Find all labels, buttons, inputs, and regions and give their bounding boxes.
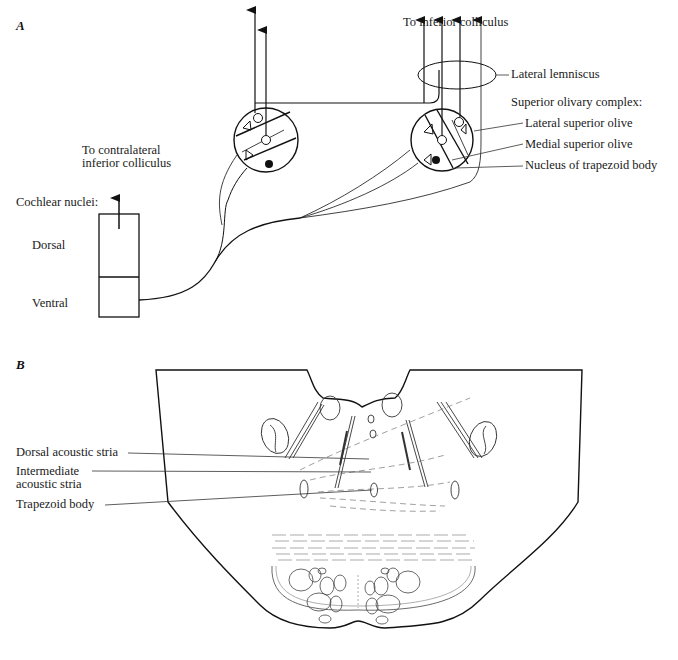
label-to-contralateral-line1: To contralateral	[82, 143, 161, 157]
brainstem-section-outline	[156, 370, 582, 628]
panel-a-letter: A	[16, 18, 25, 34]
leader-lines-b	[92, 453, 372, 505]
label-superior-olivary-complex: Superior olivary complex:	[511, 95, 642, 109]
label-dorsal-acoustic-stria: Dorsal acoustic stria	[16, 445, 118, 459]
label-ventral: Ventral	[32, 296, 68, 310]
lateral-lemniscus-ellipse	[418, 61, 496, 89]
cochlear-nuclei-box	[99, 214, 139, 317]
label-medial-superior-olive: Medial superior olive	[525, 137, 633, 151]
label-dorsal: Dorsal	[32, 238, 65, 252]
label-intermediate-acoustic-stria-line1: Intermediate	[16, 464, 79, 478]
acoustic-striae	[257, 393, 502, 511]
label-to-inferior-colliculus: To inferior colliculus	[403, 15, 508, 29]
left-superior-olivary-complex	[234, 10, 439, 172]
label-intermediate-acoustic-stria-line2: acoustic stria	[16, 477, 82, 491]
panel-b-letter: B	[16, 357, 25, 373]
label-nucleus-trapezoid-body: Nucleus of trapezoid body	[525, 158, 657, 172]
nerve-fibers	[139, 20, 481, 300]
label-trapezoid-body: Trapezoid body	[16, 497, 94, 511]
pyramidal-tracts	[272, 535, 475, 624]
label-to-contralateral-line2: inferior colliculus	[82, 156, 171, 170]
right-superior-olivary-complex	[411, 20, 473, 171]
label-cochlear-nuclei: Cochlear nuclei:	[16, 195, 98, 209]
label-lateral-lemniscus: Lateral lemniscus	[511, 67, 600, 81]
label-lateral-superior-olive: Lateral superior olive	[525, 116, 633, 130]
